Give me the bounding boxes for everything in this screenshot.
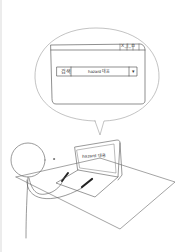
dropdown-arrow-icon[interactable]: ▾	[132, 69, 135, 74]
bubble-window: X_|_ㅁ 검색 hazard 대응 ▾ hazard 대응	[0, 0, 189, 252]
search-input[interactable]: hazard 대응	[88, 70, 110, 74]
search-label: 검색	[61, 69, 71, 74]
laptop-screen-text: hazard 대응	[82, 153, 106, 159]
window-control-buttons[interactable]: X_|_ㅁ	[121, 44, 136, 49]
